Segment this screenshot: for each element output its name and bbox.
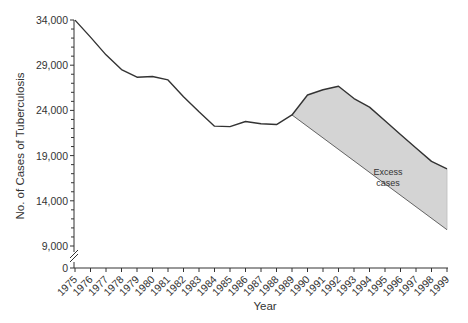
y-tick-label: 24,000 <box>36 104 68 116</box>
y-tick-label: 9,000 <box>42 240 68 252</box>
y-tick-label: 0 <box>62 262 68 274</box>
annotation-excess: Excess <box>373 167 403 177</box>
tuberculosis-chart: 34,00029,00024,00019,00014,0009,0000 197… <box>0 0 468 323</box>
y-axis: 34,00029,00024,00019,00014,0009,0000 <box>36 14 78 274</box>
y-tick-label: 19,000 <box>36 150 68 162</box>
y-tick-label: 29,000 <box>36 59 68 71</box>
y-tick-label: 14,000 <box>36 195 68 207</box>
annotation-cases: cases <box>376 178 400 188</box>
y-tick-label: 34,000 <box>36 14 68 26</box>
y-axis-title: No. of Cases of Tuberculosis <box>14 72 26 219</box>
x-axis: 1975197619771978197919801981198219831984… <box>54 268 451 298</box>
x-axis-title: Year <box>253 300 276 312</box>
